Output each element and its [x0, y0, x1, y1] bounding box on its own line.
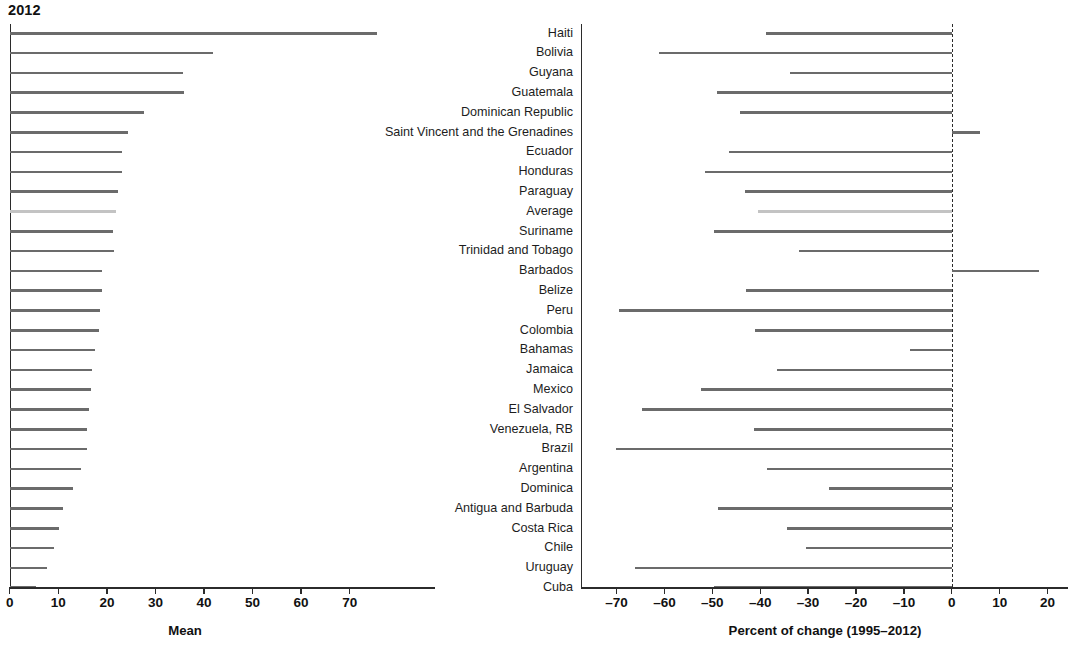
percent-change-bar	[740, 111, 952, 114]
mean-bar	[10, 468, 81, 471]
percent-change-bar	[766, 32, 952, 35]
category-label: Dominican Republic	[340, 105, 573, 120]
mean-bar	[10, 91, 184, 94]
category-label: Haiti	[340, 26, 573, 41]
category-label: Suriname	[340, 224, 573, 239]
percent-change-bar	[718, 507, 952, 510]
percent-change-bar	[659, 52, 952, 55]
chart-row: Venezuela, RB	[0, 420, 1073, 440]
category-label: Bahamas	[340, 342, 573, 357]
chart-row: Brazil	[0, 439, 1073, 459]
left-axis-tick	[155, 587, 156, 594]
percent-change-bar	[790, 72, 952, 75]
percent-change-bar	[787, 527, 952, 530]
category-label: Paraguay	[340, 184, 573, 199]
percent-change-bar	[619, 309, 951, 312]
mean-bar	[10, 448, 88, 451]
right-axis-tick	[999, 587, 1000, 594]
percent-change-bar	[806, 547, 952, 550]
right-panel-x-axis	[581, 587, 1068, 589]
right-axis-tick	[903, 587, 904, 594]
mean-bar	[10, 111, 144, 114]
mean-bar	[10, 428, 88, 431]
percent-change-bar	[754, 428, 951, 431]
plot-area: HaitiBoliviaGuyanaGuatemalaDominican Rep…	[0, 24, 1073, 587]
right-axis-tick	[712, 587, 713, 594]
percent-change-bar	[952, 270, 1039, 273]
right-axis-tick	[616, 587, 617, 594]
chart-row: Jamaica	[0, 360, 1073, 380]
mean-bar	[10, 210, 116, 213]
mean-bar	[10, 309, 100, 312]
left-axis-tick	[252, 587, 253, 594]
category-label: Chile	[340, 540, 573, 555]
right-axis-title: Percent of change (1995–2012)	[580, 623, 1070, 638]
category-label: Barbados	[340, 263, 573, 278]
right-axis-tick	[760, 587, 761, 594]
percent-change-bar	[910, 349, 952, 352]
chart-row: Colombia	[0, 321, 1073, 341]
category-label: Antigua and Barbuda	[340, 501, 573, 516]
category-label: Mexico	[340, 382, 573, 397]
mean-bar	[10, 408, 90, 411]
mean-bar	[10, 151, 123, 154]
category-label: Trinidad and Tobago	[340, 243, 573, 258]
chart-row: Suriname	[0, 222, 1073, 242]
percent-change-bar	[745, 190, 952, 193]
chart-row: El Salvador	[0, 400, 1073, 420]
chart-row: Guatemala	[0, 83, 1073, 103]
mean-bar	[10, 250, 114, 253]
chart-title: 2012	[8, 2, 41, 18]
percent-change-bar	[755, 329, 951, 332]
chart-row: Belize	[0, 281, 1073, 301]
chart-row: Haiti	[0, 24, 1073, 44]
right-axis-tick-label: 20	[1018, 595, 1073, 610]
left-axis-tick-label: 70	[320, 595, 380, 610]
chart-row: Dominican Republic	[0, 103, 1073, 123]
chart-row: Uruguay	[0, 558, 1073, 578]
left-axis-tick	[349, 587, 350, 594]
category-label: Average	[340, 204, 573, 219]
category-label: Guatemala	[340, 85, 573, 100]
mean-bar	[10, 369, 93, 372]
right-axis-tick	[855, 587, 856, 594]
percent-change-bar	[616, 448, 952, 451]
percent-change-bar	[952, 131, 980, 134]
category-label: Guyana	[340, 65, 573, 80]
percent-change-bar	[746, 289, 952, 292]
category-label: Colombia	[340, 323, 573, 338]
percent-change-bar	[799, 250, 952, 253]
category-label: El Salvador	[340, 402, 573, 417]
percent-change-bar	[777, 369, 951, 372]
category-label: Peru	[340, 303, 573, 318]
chart-row: Ecuador	[0, 142, 1073, 162]
percent-change-bar	[767, 468, 952, 471]
chart-row: Saint Vincent and the Grenadines	[0, 123, 1073, 143]
category-label: Saint Vincent and the Grenadines	[340, 125, 573, 140]
left-axis-tick	[106, 587, 107, 594]
chart-root: 2012 HaitiBoliviaGuyanaGuatemalaDominica…	[0, 0, 1073, 645]
mean-bar	[10, 131, 128, 134]
percent-change-bar	[829, 487, 952, 490]
chart-row: Costa Rica	[0, 519, 1073, 539]
percent-change-bar	[717, 91, 952, 94]
percent-change-bar	[701, 388, 952, 391]
category-label: Argentina	[340, 461, 573, 476]
chart-row: Honduras	[0, 162, 1073, 182]
category-label: Ecuador	[340, 144, 573, 159]
right-axis-tick	[664, 587, 665, 594]
chart-row: Dominica	[0, 479, 1073, 499]
chart-row: Paraguay	[0, 182, 1073, 202]
mean-bar	[10, 349, 95, 352]
mean-bar	[10, 567, 47, 570]
chart-row: Bolivia	[0, 43, 1073, 63]
category-label: Venezuela, RB	[340, 422, 573, 437]
mean-bar	[10, 32, 378, 35]
percent-change-bar	[642, 408, 951, 411]
left-axis-tick	[300, 587, 301, 594]
category-label: Brazil	[340, 441, 573, 456]
mean-bar	[10, 487, 73, 490]
percent-change-bar	[729, 151, 952, 154]
mean-bar	[10, 289, 102, 292]
category-label: Bolivia	[340, 45, 573, 60]
